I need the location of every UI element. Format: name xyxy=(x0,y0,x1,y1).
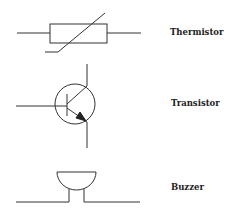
transistor-symbol xyxy=(16,64,95,148)
buzzer-symbol xyxy=(16,172,140,202)
thermistor-label: Thermistor xyxy=(170,27,223,37)
thermistor-symbol xyxy=(17,13,141,52)
transistor-label: Transistor xyxy=(171,98,220,108)
buzzer-label: Buzzer xyxy=(171,182,204,192)
